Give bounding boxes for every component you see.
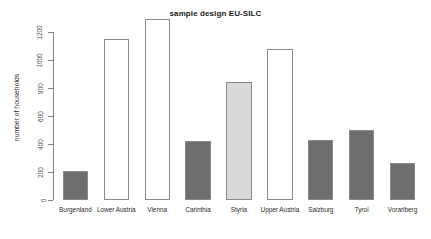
x-axis-label-lower-austria: Lower Austria <box>96 206 137 213</box>
bar-styria[interactable] <box>226 82 251 200</box>
bar-burgenland[interactable] <box>63 171 88 200</box>
x-axis-label-vienna: Vienna <box>137 206 178 213</box>
y-axis-tick-label: 1000 <box>35 53 42 67</box>
bar-lower-austria[interactable] <box>104 39 129 200</box>
chart-title: sample design EU-SILC <box>0 9 431 18</box>
bar-vorarlberg[interactable] <box>390 163 415 200</box>
y-axis-tick-label: 0 <box>41 198 48 202</box>
y-axis-tick-label-wrap: 1200 <box>0 27 46 37</box>
bar-carinthia[interactable] <box>185 141 210 201</box>
bar-salzburg[interactable] <box>308 140 333 200</box>
y-axis-tick <box>48 60 53 61</box>
y-axis-line <box>53 32 54 200</box>
y-axis-tick <box>48 144 53 145</box>
y-axis-tick-label: 200 <box>37 167 44 178</box>
y-axis-tick <box>48 88 53 89</box>
x-axis-label-upper-austria: Upper Austria <box>259 206 300 213</box>
x-axis-label-tyrol: Tyrol <box>341 206 382 213</box>
x-axis-label-vorarlberg: Vorarlberg <box>382 206 423 213</box>
y-axis-tick <box>48 116 53 117</box>
x-axis-label-burgenland: Burgenland <box>55 206 96 213</box>
x-axis-label-carinthia: Carinthia <box>178 206 219 213</box>
plot-area <box>55 28 423 200</box>
bar-vienna[interactable] <box>145 19 170 200</box>
bar-upper-austria[interactable] <box>267 49 292 200</box>
y-axis-tick-label-wrap: 0 <box>0 195 46 205</box>
bar-tyrol[interactable] <box>349 130 374 200</box>
y-axis-tick-label-wrap: 1000 <box>0 55 46 65</box>
y-axis-tick-label-wrap: 400 <box>0 139 46 149</box>
y-axis-tick <box>48 32 53 33</box>
y-axis-tick-label-wrap: 200 <box>0 167 46 177</box>
y-axis-tick-label: 400 <box>37 139 44 150</box>
y-axis-tick-label-wrap: 600 <box>0 111 46 121</box>
y-axis-tick-label-wrap: 800 <box>0 83 46 93</box>
x-axis-label-salzburg: Salzburg <box>300 206 341 213</box>
y-axis-tick-label: 1200 <box>35 25 42 39</box>
x-axis-label-styria: Styria <box>219 206 260 213</box>
y-axis-tick-label: 800 <box>37 83 44 94</box>
y-axis-tick-label: 600 <box>37 111 44 122</box>
bar-chart: sample design EU-SILC number of househol… <box>0 0 431 239</box>
y-axis-tick <box>48 172 53 173</box>
y-axis-tick <box>48 200 53 201</box>
